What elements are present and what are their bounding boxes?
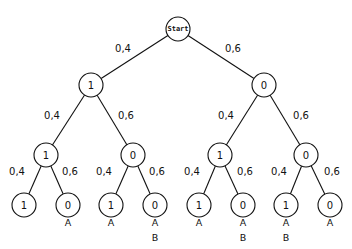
probability-label: 0,4 — [9, 166, 25, 177]
tree-node: 0 — [56, 193, 80, 217]
probability-label: 0,6 — [293, 110, 309, 121]
probability-label: 0,4 — [96, 166, 112, 177]
probability-label: 0,6 — [118, 110, 134, 121]
outcome-label: A — [65, 217, 72, 228]
node-label: 0 — [261, 80, 267, 91]
outcome-label: B — [283, 232, 290, 243]
outcome-label: A — [240, 217, 247, 228]
probability-label: 0,6 — [225, 43, 241, 54]
tree-edges — [24, 29, 330, 205]
outcome-label: B — [240, 232, 247, 243]
node-label: 0 — [65, 200, 71, 211]
probability-tree: 0,40,60,40,60,40,60,40,60,40,60,40,60,40… — [0, 0, 352, 249]
tree-node: 1 — [187, 193, 211, 217]
tree-edge — [178, 29, 264, 85]
tree-node: 0 — [318, 193, 342, 217]
probability-label: 0,6 — [324, 166, 340, 177]
node-label: 0 — [327, 200, 333, 211]
tree-edge — [91, 29, 178, 85]
node-label: 1 — [43, 150, 49, 161]
node-label: 1 — [196, 200, 202, 211]
tree-node: 1 — [274, 193, 298, 217]
start-node-label: Start — [167, 25, 188, 33]
outcome-labels: AAABAABABA — [65, 217, 334, 243]
outcome-label: A — [327, 217, 334, 228]
probability-labels: 0,40,60,40,60,40,60,40,60,40,60,40,60,40… — [9, 43, 340, 177]
tree-node: 0 — [294, 143, 318, 167]
tree-node: 0 — [252, 73, 276, 97]
start-node: Start — [166, 17, 190, 41]
probability-label: 0,4 — [115, 43, 131, 54]
tree-node: 0 — [231, 193, 255, 217]
node-label: 0 — [152, 200, 158, 211]
outcome-label: A — [283, 217, 290, 228]
tree-node: 1 — [34, 143, 58, 167]
probability-label: 0,4 — [218, 110, 234, 121]
probability-label: 0,6 — [149, 166, 165, 177]
probability-label: 0,6 — [237, 166, 253, 177]
outcome-label: A — [196, 217, 203, 228]
node-label: 1 — [21, 200, 27, 211]
outcome-label: B — [152, 232, 159, 243]
tree-node: 1 — [79, 73, 103, 97]
probability-label: 0,6 — [62, 166, 78, 177]
tree-node: 0 — [143, 193, 167, 217]
node-label: 1 — [108, 200, 114, 211]
outcome-label: A — [152, 217, 159, 228]
tree-node: 0 — [121, 143, 145, 167]
node-label: 1 — [283, 200, 289, 211]
node-label: 0 — [130, 150, 136, 161]
probability-label: 0,4 — [184, 166, 200, 177]
node-label: 0 — [240, 200, 246, 211]
tree-node: 1 — [12, 193, 36, 217]
node-label: 0 — [303, 150, 309, 161]
node-label: 1 — [88, 80, 94, 91]
outcome-label: A — [108, 217, 115, 228]
probability-label: 0,4 — [44, 110, 60, 121]
node-label: 1 — [217, 150, 223, 161]
tree-node: 1 — [99, 193, 123, 217]
probability-label: 0,4 — [271, 166, 287, 177]
tree-node: 1 — [208, 143, 232, 167]
